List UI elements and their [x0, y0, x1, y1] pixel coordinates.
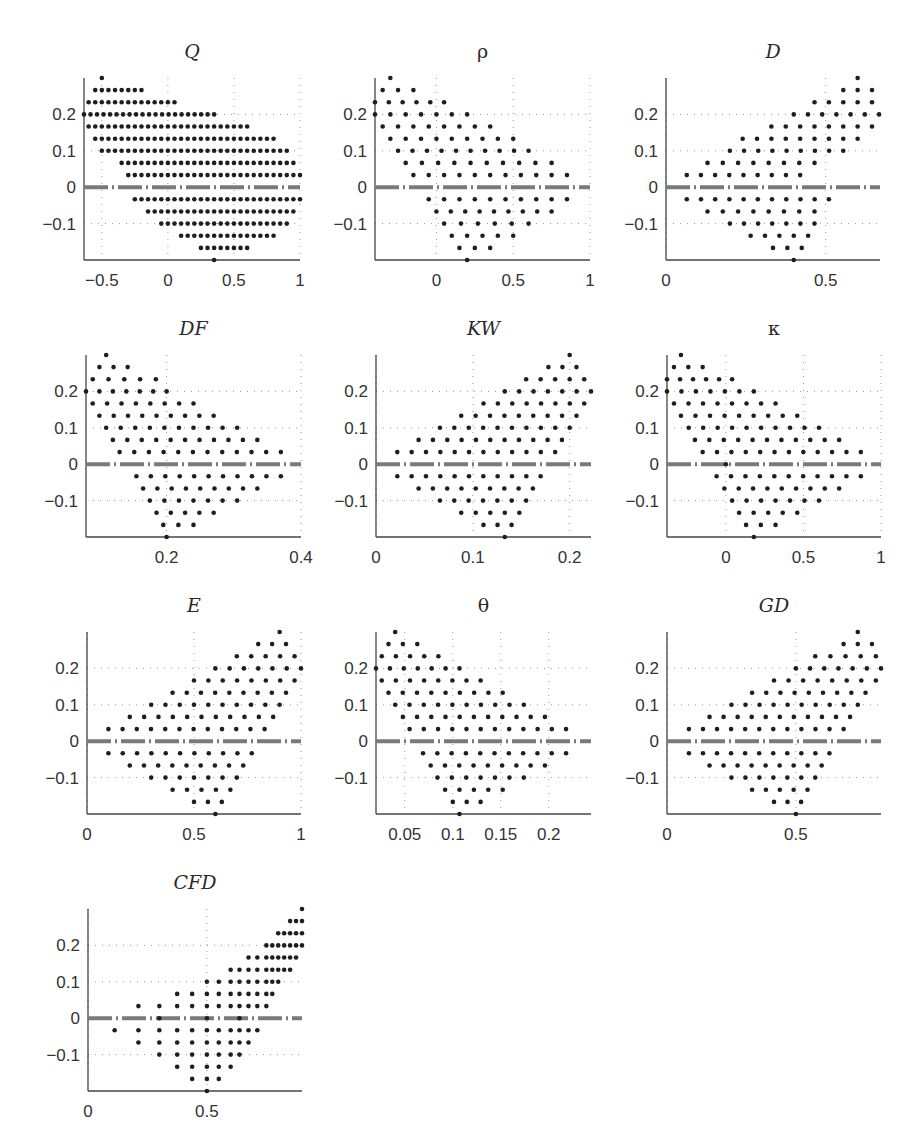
data-point — [205, 221, 210, 226]
data-point — [514, 763, 519, 768]
x-tick-label: 0.5 — [814, 271, 838, 290]
data-point — [206, 800, 211, 805]
data-point — [154, 510, 159, 515]
data-point — [409, 450, 414, 455]
x-tick-label: 1 — [876, 548, 885, 567]
data-point — [472, 690, 477, 695]
data-point — [213, 763, 218, 768]
data-point — [159, 136, 164, 141]
data-point — [778, 690, 783, 695]
data-point — [794, 486, 799, 491]
data-point — [134, 401, 139, 406]
y-tick-label: 0.2 — [52, 105, 76, 124]
data-point — [199, 246, 204, 251]
data-point — [510, 401, 515, 406]
data-point — [841, 149, 846, 154]
data-point — [160, 112, 165, 117]
data-point — [757, 751, 762, 756]
data-point — [787, 450, 792, 455]
data-point — [149, 703, 154, 708]
data-point — [190, 1040, 195, 1045]
data-point — [773, 426, 778, 431]
data-point — [166, 173, 171, 178]
data-point — [205, 197, 210, 202]
data-point — [172, 149, 177, 154]
data-point — [212, 161, 217, 166]
data-point — [373, 100, 378, 105]
data-point — [438, 474, 443, 479]
data-point — [855, 642, 860, 647]
data-point — [93, 124, 98, 129]
data-point — [784, 221, 789, 226]
data-point — [449, 209, 454, 214]
data-point — [205, 1089, 210, 1094]
data-point — [185, 124, 190, 129]
data-point — [780, 413, 785, 418]
y-tick-label: 0.2 — [344, 659, 368, 678]
data-point — [549, 173, 554, 178]
data-point — [478, 800, 483, 805]
data-point — [855, 136, 860, 141]
data-point — [400, 690, 405, 695]
x-tick-label: 0.5 — [195, 1102, 219, 1121]
y-tick-label: 0.2 — [54, 382, 78, 401]
data-point — [388, 136, 393, 141]
data-point — [755, 173, 760, 178]
data-point — [263, 654, 268, 659]
data-point — [713, 197, 718, 202]
data-point — [486, 763, 491, 768]
data-point — [464, 751, 469, 756]
data-point — [467, 450, 472, 455]
data-point — [282, 967, 287, 972]
data-point — [799, 703, 804, 708]
data-point — [214, 715, 219, 720]
data-point — [830, 474, 835, 479]
data-point — [380, 88, 385, 93]
data-point — [797, 209, 802, 214]
data-point — [488, 197, 493, 202]
data-point — [693, 413, 698, 418]
data-point — [228, 980, 233, 985]
data-point — [213, 690, 218, 695]
data-point — [759, 426, 764, 431]
data-point — [251, 136, 256, 141]
data-point — [771, 751, 776, 756]
data-point — [192, 161, 197, 166]
data-point — [792, 690, 797, 695]
data-point — [465, 112, 470, 117]
data-point — [300, 907, 305, 912]
data-point — [813, 654, 818, 659]
data-point — [133, 173, 138, 178]
data-point — [450, 800, 455, 805]
data-point — [228, 1028, 233, 1033]
data-point — [721, 715, 726, 720]
data-point — [495, 450, 500, 455]
data-point — [820, 715, 825, 720]
data-point — [213, 812, 218, 817]
data-point — [693, 438, 698, 443]
data-point — [471, 763, 476, 768]
data-point — [424, 450, 429, 455]
data-point — [218, 221, 223, 226]
data-point — [507, 775, 512, 780]
data-point — [197, 510, 202, 515]
data-point — [500, 763, 505, 768]
data-point — [477, 209, 482, 214]
data-point — [388, 666, 393, 671]
data-point — [256, 666, 261, 671]
data-point — [212, 124, 217, 129]
data-point — [736, 486, 741, 491]
data-point — [759, 401, 764, 406]
data-point — [172, 124, 177, 129]
data-point — [221, 751, 226, 756]
y-tick-label: −0.1 — [625, 769, 659, 788]
data-point — [502, 438, 507, 443]
data-point — [199, 136, 204, 141]
data-point — [255, 438, 260, 443]
data-point — [242, 666, 247, 671]
data-point — [801, 450, 806, 455]
data-point — [126, 149, 131, 154]
data-point — [751, 413, 756, 418]
data-point — [298, 173, 303, 178]
data-point — [190, 1064, 195, 1069]
